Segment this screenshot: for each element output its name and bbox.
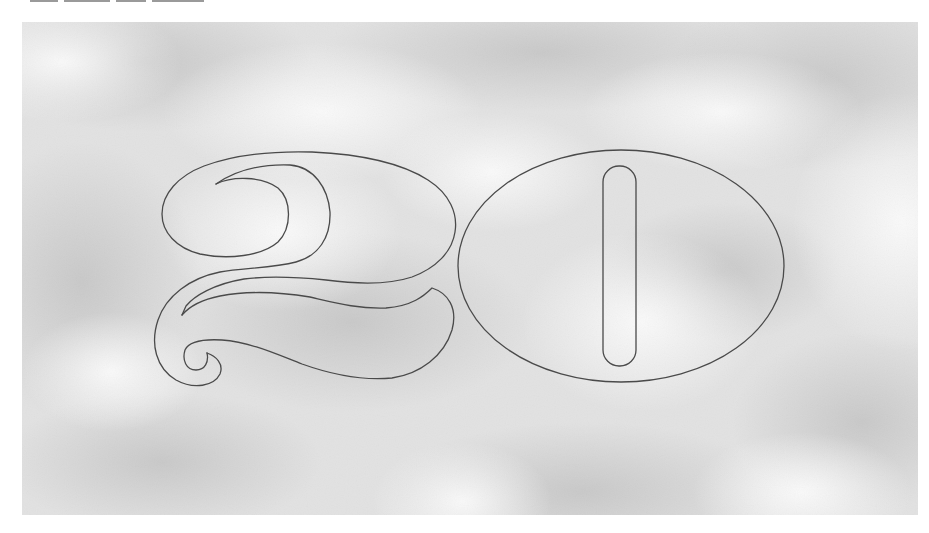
cloud-background-panel [22, 22, 918, 515]
cloud-texture [22, 22, 918, 515]
clipped-caption-line [30, 0, 230, 3]
